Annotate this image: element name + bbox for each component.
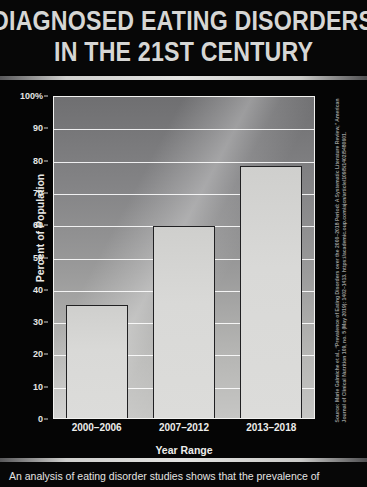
x-axis-ticks: 2000–20062007–20122013–2018 — [53, 422, 315, 433]
bar-series — [54, 97, 314, 418]
y-tick-mark — [44, 225, 48, 226]
bar — [66, 305, 128, 418]
y-tick-label: 70 — [33, 188, 43, 198]
caption-block: An analysis of eating disorder studies s… — [0, 462, 367, 487]
bar-slot — [54, 97, 141, 418]
bar-chart: Percent of Population 010203040506070809… — [0, 82, 367, 456]
bar-slot — [227, 97, 314, 418]
y-axis-ticks: 0102030405060708090100% — [8, 96, 48, 419]
y-tick-mark — [44, 96, 48, 97]
y-tick-mark — [44, 289, 48, 290]
bar — [153, 226, 215, 418]
y-tick-label: 10 — [33, 382, 43, 392]
y-tick-label: 20 — [33, 349, 43, 359]
y-tick-label: 90 — [33, 123, 43, 133]
y-tick-mark — [44, 160, 48, 161]
title-line-2: In the 21st Century — [54, 37, 313, 68]
x-tick-label: 2000–2006 — [53, 422, 140, 433]
y-tick-mark — [44, 128, 48, 129]
y-tick-mark — [44, 419, 48, 420]
y-tick-mark — [44, 257, 48, 258]
divider-top — [0, 76, 367, 80]
y-tick-mark — [44, 354, 48, 355]
y-tick-mark — [44, 386, 48, 387]
y-tick-label: 0 — [38, 414, 43, 424]
title-block: Diagnosed Eating Disorders In the 21st C… — [0, 0, 367, 74]
bar — [240, 166, 302, 418]
y-tick-label: 80 — [33, 156, 43, 166]
source-citation: Source: Marie Galmiche et al., “Prevalen… — [318, 96, 364, 426]
title-line-1: Diagnosed Eating Disorders — [0, 6, 367, 37]
bar-slot — [141, 97, 228, 418]
x-tick-label: 2013–2018 — [228, 422, 315, 433]
y-tick-label: 40 — [33, 285, 43, 295]
y-tick-label: 50 — [33, 253, 43, 263]
x-axis-title: Year Range — [53, 444, 315, 456]
y-tick-mark — [44, 322, 48, 323]
source-citation-text: Source: Marie Galmiche et al., “Prevalen… — [334, 96, 349, 422]
y-tick-label: 100% — [20, 91, 43, 101]
y-tick-mark — [44, 192, 48, 193]
caption-text: An analysis of eating disorder studies s… — [9, 469, 361, 483]
infographic-root: Diagnosed Eating Disorders In the 21st C… — [0, 0, 367, 487]
plot-area — [53, 96, 315, 419]
y-tick-label: 30 — [33, 317, 43, 327]
x-tick-label: 2007–2012 — [140, 422, 227, 433]
y-tick-label: 60 — [33, 220, 43, 230]
